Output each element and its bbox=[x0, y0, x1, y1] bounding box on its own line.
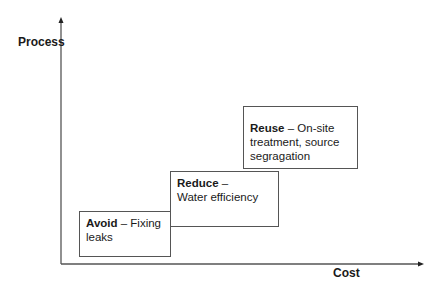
reduce-box: Reduce – Water efficiency bbox=[170, 171, 279, 227]
reuse-box: Reuse – On-site treatment, source segrag… bbox=[243, 106, 358, 169]
y-axis-label: Process bbox=[18, 35, 65, 49]
x-axis-label: Cost bbox=[333, 266, 360, 280]
x-axis-arrow-icon bbox=[418, 262, 424, 267]
axes-graphic bbox=[0, 0, 437, 284]
y-axis-arrow-icon bbox=[59, 17, 64, 23]
reduce-title: Reduce bbox=[177, 177, 219, 189]
reuse-title: Reuse bbox=[250, 122, 285, 134]
reduce-text: Water efficiency bbox=[177, 191, 258, 203]
avoid-box: Avoid – Fixing leaks bbox=[79, 211, 171, 257]
avoid-title: Avoid bbox=[86, 217, 118, 229]
